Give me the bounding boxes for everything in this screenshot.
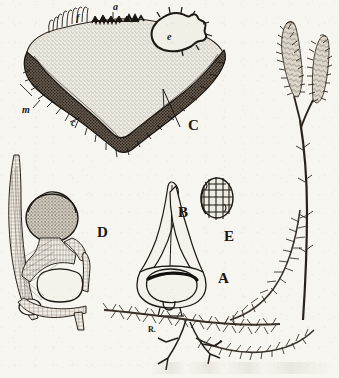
- detail-label-f: f: [76, 13, 79, 23]
- figure-label-a: A: [218, 271, 229, 286]
- figure-label-e: E: [224, 229, 234, 244]
- figure-label-d: D: [97, 225, 108, 240]
- botanical-plate: A B C D E a f e m c R.: [0, 0, 339, 378]
- detail-label-a: a: [113, 2, 118, 12]
- plate-artwork: [0, 0, 339, 378]
- figure-label-c: C: [188, 118, 199, 133]
- detail-label-m: m: [22, 105, 30, 115]
- detail-label-c: c: [71, 118, 75, 128]
- figure-label-b: B: [178, 205, 188, 220]
- detail-label-r: R.: [148, 326, 156, 334]
- detail-label-e: e: [167, 32, 171, 42]
